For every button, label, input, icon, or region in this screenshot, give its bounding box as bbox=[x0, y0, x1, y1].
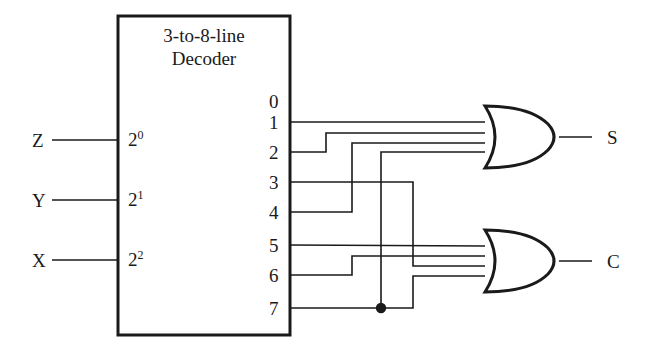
output-label-6: 6 bbox=[269, 266, 279, 285]
input-pin-base-2: 2 bbox=[128, 249, 138, 270]
input-pin-exp-0: 0 bbox=[138, 128, 144, 142]
circuit-schematic bbox=[0, 0, 655, 360]
carry-or-gate-body bbox=[485, 230, 554, 292]
wire-out-3-to-carry bbox=[290, 182, 485, 266]
junction-dot bbox=[376, 303, 386, 313]
wire-out-7-to-sum bbox=[381, 152, 485, 308]
input-pin-base-0: 2 bbox=[128, 129, 138, 150]
sum-output-label: S bbox=[607, 128, 618, 147]
block-title-line-1: 3-to-8-line bbox=[118, 24, 290, 47]
sum-or-gate-body bbox=[485, 106, 554, 168]
output-label-1: 1 bbox=[269, 113, 279, 132]
wire-out-7-to-carry bbox=[290, 276, 485, 308]
input-pin-2-pow-2: 22 bbox=[128, 249, 144, 269]
output-label-0: 0 bbox=[269, 92, 279, 111]
wire-out-4-to-sum bbox=[290, 143, 485, 212]
input-label-z: Z bbox=[32, 131, 44, 150]
input-label-y: Y bbox=[32, 191, 46, 210]
block-title: 3-to-8-line Decoder bbox=[118, 24, 290, 70]
output-label-7: 7 bbox=[269, 299, 279, 318]
output-label-4: 4 bbox=[269, 203, 279, 222]
carry-output-label: C bbox=[607, 252, 620, 271]
decoder-circuit-diagram: 3-to-8-line Decoder Z Y X 20 21 22 0 1 2… bbox=[0, 0, 655, 360]
input-label-x: X bbox=[32, 251, 46, 270]
input-pin-exp-2: 2 bbox=[138, 248, 144, 262]
input-pin-2-pow-0: 20 bbox=[128, 129, 144, 149]
output-label-2: 2 bbox=[269, 143, 279, 162]
input-pin-exp-1: 1 bbox=[138, 188, 144, 202]
block-title-line-2: Decoder bbox=[118, 47, 290, 70]
output-label-5: 5 bbox=[269, 236, 279, 255]
input-pin-base-1: 2 bbox=[128, 189, 138, 210]
input-pin-2-pow-1: 21 bbox=[128, 189, 144, 209]
output-label-3: 3 bbox=[269, 173, 279, 192]
wire-out-5-to-carry bbox=[290, 245, 485, 246]
